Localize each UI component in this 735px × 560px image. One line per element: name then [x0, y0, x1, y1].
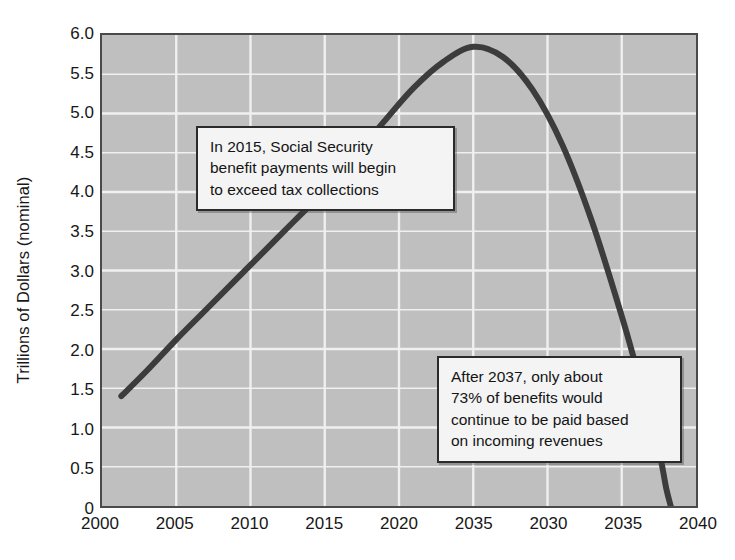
y-axis-tick-labels: 00.51.01.52.02.53.03.54.04.55.05.56.0	[48, 33, 94, 508]
callout-2015-line-1: In 2015, Social Security	[210, 136, 442, 157]
x-tick-label: 2015	[284, 515, 364, 532]
y-tick-label: 0.5	[48, 460, 94, 477]
chart-root: Trillions of Dollars (nominal) 00.51.01.…	[0, 0, 735, 560]
x-tick-label: 2030	[509, 515, 589, 532]
callout-2037-line-2: 73% of benefits would	[451, 387, 669, 408]
y-tick-label: 2.5	[48, 302, 94, 319]
x-tick-label: 2040	[658, 515, 735, 532]
callout-2015-line-2: benefit payments will begin	[210, 157, 442, 178]
y-tick-label: 1.5	[48, 381, 94, 398]
x-tick-label: 2005	[135, 515, 215, 532]
callout-2037-line-1: After 2037, only about	[451, 366, 669, 387]
y-tick-label: 4.0	[48, 183, 94, 200]
x-axis-tick-labels: 200020052010201520202035203020352040	[100, 515, 698, 543]
y-tick-label: 6.0	[48, 25, 94, 42]
x-tick-label: 2000	[60, 515, 140, 532]
y-tick-label: 5.5	[48, 64, 94, 81]
y-tick-label: 4.5	[48, 143, 94, 160]
callout-2015-line-3: to exceed tax collections	[210, 179, 442, 200]
annotation-callout-2015: In 2015, Social Security benefit payment…	[196, 126, 455, 211]
x-tick-label: 2035	[434, 515, 514, 532]
y-tick-label: 3.5	[48, 222, 94, 239]
annotation-callout-2037: After 2037, only about 73% of benefits w…	[437, 356, 682, 463]
y-axis-title: Trillions of Dollars (nominal)	[0, 0, 46, 560]
callout-2037-line-4: on incoming revenues	[451, 430, 669, 451]
y-tick-label: 3.0	[48, 262, 94, 279]
y-tick-label: 1.0	[48, 420, 94, 437]
x-tick-label: 2035	[583, 515, 663, 532]
x-tick-label: 2010	[210, 515, 290, 532]
x-tick-label: 2020	[359, 515, 439, 532]
y-tick-label: 5.0	[48, 104, 94, 121]
y-tick-label: 2.0	[48, 341, 94, 358]
callout-2037-line-3: continue to be paid based	[451, 409, 669, 430]
